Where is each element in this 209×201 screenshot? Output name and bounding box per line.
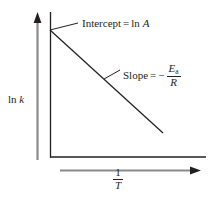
x-fraction-numerator: 1 (113, 167, 123, 180)
slope-minus-sign: − (158, 69, 166, 81)
plot-canvas (0, 0, 209, 201)
arrhenius-plot-figure: Intercept=ln A Slope=− Ea R ln k 1 T (0, 0, 209, 201)
slope-equals-sign: = (148, 69, 158, 81)
subscript-a: a (175, 67, 178, 76)
intercept-leader-line (50, 23, 78, 30)
slope-leader-line (104, 70, 120, 79)
x-axis-label: 1 T (113, 168, 123, 192)
activation-energy-fraction: Ea R (167, 63, 181, 88)
y-axis-arrow (34, 12, 42, 160)
x-fraction-denominator: T (113, 180, 123, 192)
slope-annotation: Slope=− Ea R (123, 64, 181, 89)
slope-lead-text: Slope (123, 69, 148, 81)
y-axis-ln-prefix: ln (8, 93, 19, 105)
y-axis-variable-k: k (19, 93, 24, 105)
inverse-temperature-fraction: 1 T (113, 167, 123, 191)
y-axis-label: ln k (8, 94, 24, 105)
intercept-annotation: Intercept=ln A (82, 18, 149, 29)
fraction-denominator: R (167, 77, 181, 89)
intercept-lead-text: Intercept (82, 17, 121, 29)
intercept-ln-prefix: ln (131, 17, 142, 29)
fraction-numerator: Ea (167, 63, 181, 77)
intercept-equals-sign: = (121, 17, 131, 29)
intercept-variable-a: A (143, 17, 150, 29)
x-axis-arrow (60, 167, 201, 175)
